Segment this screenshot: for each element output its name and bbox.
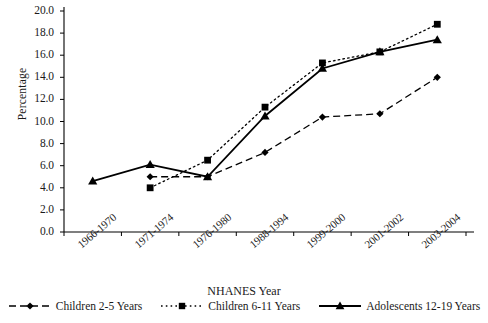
data-point-diamond (26, 302, 33, 309)
data-point-square (434, 21, 441, 28)
data-point-square (179, 303, 185, 309)
data-point-square (147, 184, 154, 191)
data-point-diamond (434, 74, 441, 81)
legend-swatch-triangle (318, 300, 362, 312)
legend-label: Children 6-11 Years (208, 300, 300, 312)
legend-label: Adolescents 12-19 Years (366, 300, 480, 312)
legend-label: Children 2-5 Years (56, 300, 143, 312)
chart-legend: Children 2-5 YearsChildren 6-11 YearsAdo… (0, 300, 488, 312)
data-point-square (262, 104, 269, 111)
chart-container: Percentage 0.02.04.06.08.010.012.014.016… (0, 0, 488, 323)
data-point-diamond (319, 113, 326, 120)
data-point-diamond (376, 110, 383, 117)
data-point-square (204, 157, 211, 164)
data-point-triangle (433, 35, 442, 43)
legend-swatch-square (160, 300, 204, 312)
data-point-diamond (147, 173, 154, 180)
legend-swatch-diamond (8, 300, 52, 312)
series-square (147, 21, 441, 191)
legend-item: Children 2-5 Years (8, 300, 143, 312)
series-diamond (147, 74, 441, 181)
legend-item: Children 6-11 Years (160, 300, 300, 312)
legend-item: Adolescents 12-19 Years (318, 300, 480, 312)
x-axis-title: NHANES Year (0, 284, 488, 299)
data-point-triangle (146, 160, 155, 168)
plot-area (0, 0, 488, 323)
data-point-diamond (261, 149, 268, 156)
